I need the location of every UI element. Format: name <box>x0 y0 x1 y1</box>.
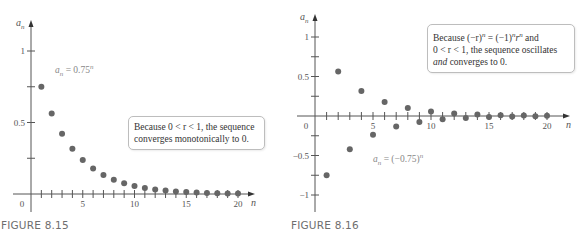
y-axis-arrow-icon <box>313 14 318 21</box>
data-point <box>225 190 231 196</box>
data-point <box>335 69 341 75</box>
y-tick-label: 0.5 <box>14 118 26 128</box>
data-point <box>544 113 550 119</box>
data-point <box>521 113 527 119</box>
x-axis-arrow-icon <box>248 192 255 197</box>
data-point <box>100 172 106 178</box>
x-axis-arrow-icon <box>563 114 570 119</box>
data-point <box>59 131 65 137</box>
y-tick-label: −1 <box>299 190 309 200</box>
data-point <box>214 190 220 196</box>
data-point <box>204 190 210 196</box>
data-point <box>173 188 179 194</box>
data-point <box>163 188 169 194</box>
y-tick-label: 1 <box>21 46 26 56</box>
data-point <box>324 172 330 178</box>
data-point <box>183 189 189 195</box>
data-point <box>498 112 504 118</box>
figure-caption: FIGURE 8.16 <box>291 219 359 231</box>
data-point <box>69 146 75 152</box>
data-point <box>121 180 127 186</box>
origin-label: 0 <box>304 121 309 131</box>
data-point <box>111 177 117 183</box>
x-tick-label: 5 <box>81 199 86 209</box>
x-axis-label: n <box>566 119 571 130</box>
x-tick-label: 15 <box>182 199 192 209</box>
data-point <box>358 88 364 94</box>
data-point <box>509 114 515 120</box>
x-tick-label: 5 <box>371 121 376 131</box>
data-point <box>463 115 469 121</box>
data-point <box>532 113 538 119</box>
data-point <box>451 110 457 116</box>
data-point <box>486 114 492 120</box>
x-tick-label: 15 <box>485 121 495 131</box>
data-point <box>80 157 86 163</box>
annotation-line-1: Because (−r)n = (−1)nrn and <box>433 29 569 44</box>
data-point <box>440 116 446 122</box>
data-point <box>370 132 376 138</box>
y-tick-label: −0.5 <box>293 151 310 161</box>
annotation-line-1: Because 0 < r < 1, the sequence <box>134 121 259 133</box>
data-point <box>90 166 96 172</box>
origin-label: 0 <box>20 199 25 209</box>
data-point <box>416 119 422 125</box>
annotation-box: Because (−r)n = (−1)nrn and 0 < r < 1, t… <box>427 24 575 73</box>
data-point <box>347 146 353 152</box>
x-tick-label: 20 <box>234 199 244 209</box>
annotation-line-3: and converges to 0. <box>433 56 569 68</box>
x-tick-label: 10 <box>427 121 437 131</box>
annotation-box: Because 0 < r < 1, the sequence converge… <box>128 116 265 150</box>
data-points <box>324 69 550 179</box>
x-tick-label: 10 <box>130 199 140 209</box>
formula-label: an = 0.75n <box>55 63 93 78</box>
y-axis-label: an <box>300 11 309 25</box>
annotation-line-2: 0 < r < 1, the sequence oscillates <box>433 44 569 56</box>
y-axis-arrow-icon <box>29 20 34 27</box>
formula-label: an = (−0.75)n <box>373 152 423 167</box>
data-point <box>393 124 399 130</box>
y-tick-label: 1 <box>305 32 310 42</box>
x-axis-label: n <box>251 197 256 208</box>
data-point <box>235 191 241 197</box>
data-point <box>428 109 434 115</box>
data-point <box>382 99 388 105</box>
figure-caption: FIGURE 8.15 <box>1 219 69 231</box>
annotation-line-2: converges monotonically to 0. <box>134 133 259 145</box>
data-point <box>405 105 411 111</box>
y-tick-label: 0.5 <box>298 72 310 82</box>
figure-8-16: 51015200n10.5−0.5−1an an = (−0.75)n Beca… <box>290 0 580 237</box>
data-point <box>152 186 158 192</box>
y-axis-label: an <box>16 17 25 31</box>
data-point <box>142 185 148 191</box>
data-point <box>194 190 200 196</box>
data-point <box>49 111 55 117</box>
figure-8-15: 51015200n10.5an an = 0.75n Because 0 < r… <box>0 0 290 237</box>
data-point <box>474 112 480 118</box>
x-tick-label: 20 <box>543 121 553 131</box>
data-point <box>38 84 44 90</box>
data-point <box>132 183 138 189</box>
